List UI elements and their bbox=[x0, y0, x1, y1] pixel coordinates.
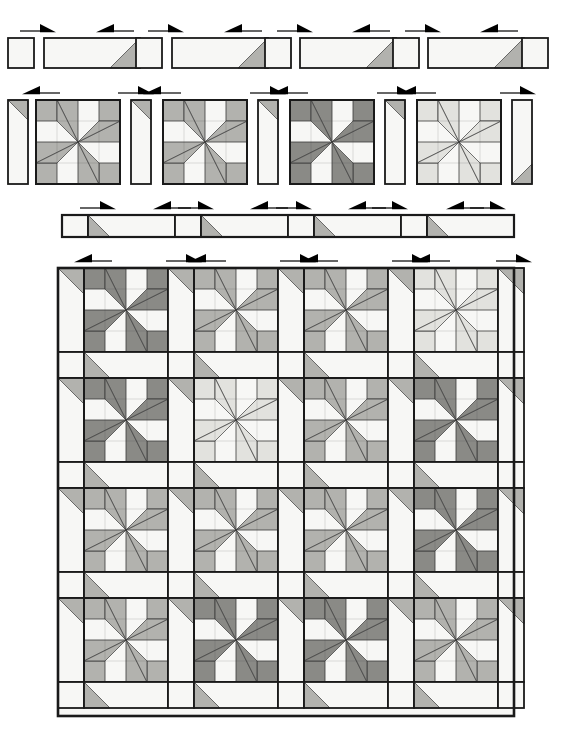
block-corner-square bbox=[84, 661, 105, 682]
block-corner-square bbox=[304, 661, 325, 682]
block-corner-square bbox=[84, 268, 105, 289]
press-direction-arrow bbox=[496, 254, 532, 262]
patch-body bbox=[168, 352, 194, 378]
pinwheel-star-block bbox=[84, 488, 168, 572]
block-corner-square bbox=[367, 268, 388, 289]
block-corner-square bbox=[257, 378, 278, 399]
arrow-head bbox=[153, 201, 171, 209]
pinwheel-star-block bbox=[194, 488, 278, 572]
block-corner-square bbox=[477, 378, 498, 399]
block-corner-square bbox=[414, 661, 435, 682]
sashing-strip bbox=[172, 38, 268, 68]
press-direction-arrow bbox=[372, 201, 408, 209]
sashing-strip bbox=[427, 215, 514, 237]
block-corner-square bbox=[367, 378, 388, 399]
patch-body bbox=[278, 682, 304, 708]
arrow-head bbox=[100, 201, 116, 209]
pinwheel-star-block bbox=[304, 488, 388, 572]
block-corner-square bbox=[194, 331, 215, 352]
press-direction-arrow bbox=[405, 24, 441, 32]
block-corner-square bbox=[414, 331, 435, 352]
sashing-strip bbox=[194, 682, 278, 708]
sashing-strip bbox=[304, 352, 388, 378]
arrow-head bbox=[480, 24, 498, 32]
cornerstone-square bbox=[175, 215, 201, 237]
block-corner-square bbox=[194, 268, 215, 289]
block-corner-square bbox=[99, 100, 120, 121]
block-corner-square bbox=[84, 331, 105, 352]
block-corner-square bbox=[257, 488, 278, 509]
cornerstone-square bbox=[58, 352, 84, 378]
cornerstone-square bbox=[168, 352, 194, 378]
patch-body bbox=[265, 38, 291, 68]
block-corner-square bbox=[194, 551, 215, 572]
vertical-sashing-strip bbox=[168, 378, 194, 462]
block-corner-square bbox=[194, 378, 215, 399]
block-corner-square bbox=[163, 100, 184, 121]
press-direction-arrow bbox=[143, 86, 181, 94]
sashing-strip bbox=[304, 682, 388, 708]
sashing-strip bbox=[314, 215, 401, 237]
block-corner-square bbox=[226, 100, 247, 121]
block-corner-square bbox=[367, 488, 388, 509]
cornerstone-square bbox=[58, 462, 84, 488]
sashing-strip bbox=[201, 215, 288, 237]
patch-body bbox=[498, 572, 524, 598]
pinwheel-star-block bbox=[304, 268, 388, 352]
sashing-strip bbox=[88, 215, 175, 237]
block-corner-square bbox=[367, 551, 388, 572]
patch-body bbox=[58, 682, 84, 708]
block-corner-square bbox=[367, 441, 388, 462]
press-direction-arrow bbox=[276, 201, 312, 209]
block-corner-square bbox=[147, 378, 168, 399]
arrow-head bbox=[198, 201, 214, 209]
sashing-strip bbox=[304, 572, 388, 598]
sashing-strip bbox=[84, 462, 168, 488]
cornerstone-square bbox=[265, 38, 291, 68]
block-corner-square bbox=[194, 441, 215, 462]
block-corner-square bbox=[36, 100, 57, 121]
arrow-head bbox=[224, 24, 242, 32]
vertical-sashing-strip bbox=[498, 378, 524, 462]
step-2-block-and-sashing-row bbox=[8, 86, 536, 184]
pinwheel-star-block bbox=[84, 598, 168, 682]
cornerstone-square bbox=[388, 462, 414, 488]
vertical-sashing-strip bbox=[385, 100, 405, 184]
cornerstone-square bbox=[388, 682, 414, 708]
press-direction-arrow bbox=[74, 254, 112, 262]
sashing-strip bbox=[414, 352, 498, 378]
arrow-head bbox=[168, 24, 184, 32]
cornerstone-square bbox=[278, 352, 304, 378]
patch-body bbox=[58, 462, 84, 488]
cornerstone-square bbox=[498, 462, 524, 488]
vertical-sashing-strip bbox=[168, 268, 194, 352]
patch-body bbox=[136, 38, 162, 68]
patch-body bbox=[278, 462, 304, 488]
quilt-row bbox=[58, 268, 524, 352]
block-corner-square bbox=[414, 488, 435, 509]
arrow-head bbox=[74, 254, 92, 262]
step-4-finished-quilt-top bbox=[58, 254, 532, 716]
pinwheel-star-block bbox=[414, 488, 498, 572]
block-corner-square bbox=[480, 163, 501, 184]
cornerstone-square bbox=[498, 682, 524, 708]
sashing-strip bbox=[84, 682, 168, 708]
patch-body bbox=[498, 352, 524, 378]
patch-body bbox=[278, 572, 304, 598]
block-corner-square bbox=[226, 163, 247, 184]
arrow-head bbox=[446, 201, 464, 209]
block-corner-square bbox=[257, 551, 278, 572]
block-corner-square bbox=[480, 100, 501, 121]
pinwheel-star-block bbox=[414, 268, 498, 352]
block-corner-square bbox=[84, 488, 105, 509]
block-corner-square bbox=[367, 598, 388, 619]
arrow-head bbox=[348, 201, 366, 209]
block-corner-square bbox=[84, 598, 105, 619]
block-corner-square bbox=[353, 163, 374, 184]
block-corner-square bbox=[304, 551, 325, 572]
block-corner-square bbox=[257, 331, 278, 352]
block-corner-square bbox=[414, 598, 435, 619]
step-1-sashing-unit-row bbox=[8, 24, 548, 68]
pinwheel-star-block bbox=[163, 100, 247, 184]
cornerstone-square bbox=[388, 352, 414, 378]
